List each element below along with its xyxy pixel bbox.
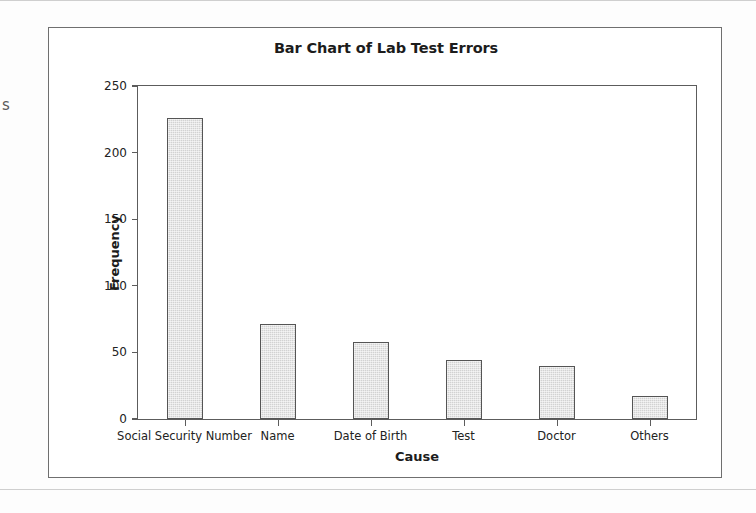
x-axis-title: Cause [395, 449, 439, 464]
y-axis-tick-mark [132, 85, 138, 86]
y-axis-tick-mark [132, 285, 138, 286]
y-axis-tick-label: 250 [104, 79, 132, 93]
bar [539, 366, 575, 419]
x-axis-tick-mark [557, 419, 558, 426]
x-axis-tick-label: Date of Birth [334, 429, 408, 443]
y-axis-tick-label: 200 [104, 146, 132, 160]
y-axis-tick: 50 [112, 345, 138, 359]
bar [260, 324, 296, 419]
x-axis-tick-mark [650, 419, 651, 426]
x-axis-tick-mark [185, 419, 186, 426]
x-axis-tick-label: Social Security Number [117, 429, 252, 443]
bar [446, 360, 482, 419]
x-axis-tick-label: Others [630, 429, 669, 443]
y-axis-tick-mark [132, 418, 138, 419]
x-axis-tick-label: Test [452, 429, 475, 443]
x-axis-tick-mark [464, 419, 465, 426]
page-bottom-rule [0, 489, 756, 490]
bar [353, 342, 389, 419]
y-axis-tick-label: 50 [112, 345, 132, 359]
y-axis-tick-mark [132, 152, 138, 153]
y-axis-tick: 250 [104, 79, 138, 93]
y-axis-title: Frequency [107, 214, 122, 290]
x-axis-tick-label: Doctor [537, 429, 576, 443]
y-axis-tick: 0 [119, 412, 138, 426]
page-margin-text-fragment: s [2, 96, 10, 114]
y-axis-tick-mark [132, 219, 138, 220]
x-axis-tick-label: Name [261, 429, 295, 443]
scanned-page-background: s Bar Chart of Lab Test Errors 050100150… [0, 0, 756, 513]
chart-title: Bar Chart of Lab Test Errors [49, 40, 723, 56]
plot-area: 050100150200250 Frequency Social Securit… [137, 85, 697, 420]
y-axis-tick-label: 0 [119, 412, 132, 426]
x-axis-tick-mark [278, 419, 279, 426]
x-axis-tick-mark [371, 419, 372, 426]
y-axis-tick-mark [132, 352, 138, 353]
page-top-rule [0, 0, 756, 1]
y-axis-tick: 200 [104, 146, 138, 160]
figure-frame: Bar Chart of Lab Test Errors 05010015020… [48, 27, 722, 478]
bar [167, 118, 203, 419]
bar [632, 396, 668, 419]
